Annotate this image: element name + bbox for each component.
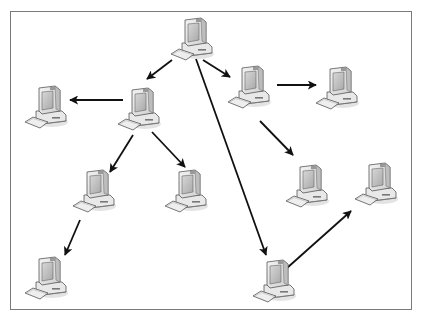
computer-left-far-icon — [25, 86, 68, 128]
computer-left-mid-icon — [73, 170, 116, 212]
edge-n1-to-n3 — [147, 60, 172, 79]
edge-n4-to-n8 — [260, 121, 293, 155]
computer-right-mid-icon — [286, 165, 329, 207]
computer-hub-left-icon — [118, 88, 161, 130]
edge-n1-to-n4 — [203, 60, 230, 77]
computer-far-right-mid-icon — [355, 163, 398, 205]
edge-n3-to-n7 — [152, 132, 185, 167]
network-diagram — [0, 0, 423, 319]
edge-n6-to-n10 — [65, 220, 80, 255]
computer-center-mid-icon — [165, 170, 208, 212]
nodes-group — [25, 18, 398, 302]
computer-top-icon — [171, 18, 214, 60]
computer-right-top-icon — [316, 67, 359, 109]
edge-n3-to-n6 — [110, 135, 133, 172]
computer-hub-right-icon — [228, 66, 271, 108]
computer-bottom-left-icon — [25, 257, 68, 299]
edge-n11-to-n9 — [287, 211, 351, 268]
edges-group — [65, 59, 351, 268]
